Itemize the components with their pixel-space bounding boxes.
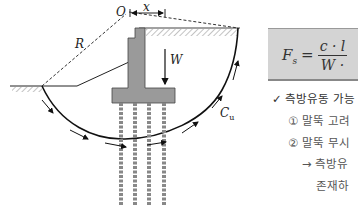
formula-numerator: c · l [318,38,348,56]
notes-result-line-2: 존재하 [316,181,349,193]
safety-factor-formula-box: Fs=c · lW · [268,28,358,81]
notes-item-1: ① 말뚝 고려 [288,116,350,128]
formula-fraction: c · lW · [318,38,348,73]
cohesion-subscript: u [229,113,234,122]
notes-item-1-marker: ① [288,114,298,128]
notes-result-line-1: → 측방유 [302,159,348,171]
result-arrow-icon: → [302,157,312,171]
notes-item-2-text: 말뚝 무시 [302,136,350,150]
notes-heading-text: 측방유동 가능 [285,92,355,106]
cohesion-symbol: C [220,106,229,120]
formula-lhs-subscript: s [292,56,297,66]
offset-label: x [143,1,150,13]
notes-result-text-1: 측방유 [315,157,348,171]
left-ground [10,62,129,92]
cohesion-label: Cu [220,107,234,122]
formula-lhs: F [282,46,292,64]
formula-equals: = [301,46,314,64]
safety-factor-formula: Fs=c · lW · [282,38,347,73]
notes-heading: ✓ 측방유동 가능 [272,94,355,106]
notes-item-1-text: 말뚝 고려 [302,114,350,128]
top-chord-line [129,12,238,28]
notes-item-2-marker: ② [288,136,298,150]
check-icon: ✓ [272,92,282,106]
radius-label: R [75,38,84,50]
right-ground [139,28,240,36]
notes-item-2: ② 말뚝 무시 [288,138,350,150]
formula-denominator: W · [318,56,348,73]
weight-label: W [170,54,182,66]
origin-label: O [116,6,126,18]
piles [121,103,164,206]
radius-line [42,14,126,86]
